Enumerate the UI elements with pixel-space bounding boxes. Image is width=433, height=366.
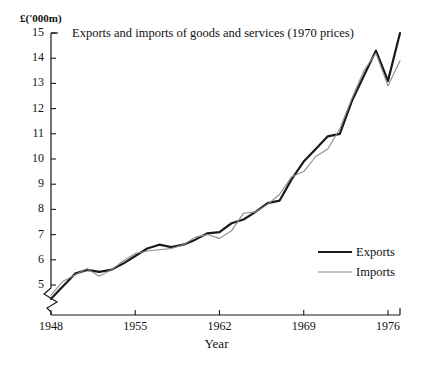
chart-figure: £('000m) Exports and imports of goods an… (0, 0, 433, 366)
plot-area (0, 0, 433, 366)
y-tick-label: 8 (18, 201, 44, 216)
x-tick-label: 1948 (28, 319, 74, 334)
y-tick-label: 13 (18, 75, 44, 90)
x-axis-title: Year (0, 336, 433, 352)
legend-label-imports: Imports (356, 265, 395, 280)
x-tick-label: 1976 (365, 319, 411, 334)
y-tick-label: 14 (18, 50, 44, 65)
data-series-group (51, 33, 400, 299)
x-tick-label: 1969 (281, 319, 327, 334)
y-tick-label: 15 (18, 25, 44, 40)
y-tick-label: 10 (18, 151, 44, 166)
x-tick-label: 1962 (196, 319, 242, 334)
y-tick-label: 9 (18, 176, 44, 191)
y-tick-label: 5 (18, 277, 44, 292)
y-tick-label: 11 (18, 126, 44, 141)
y-tick-label: 12 (18, 101, 44, 116)
y-tick-label: 6 (18, 252, 44, 267)
legend-label-exports: Exports (356, 245, 395, 260)
y-tick-label: 7 (18, 227, 44, 242)
x-tick-label: 1955 (112, 319, 158, 334)
tick-marks-group (51, 33, 388, 315)
legend-swatch-group (318, 252, 352, 272)
